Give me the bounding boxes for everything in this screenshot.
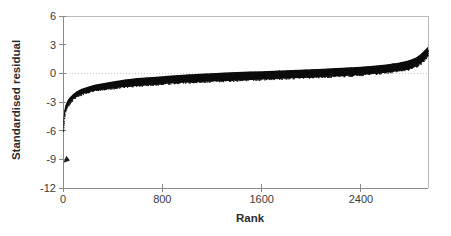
chart-container: 630-3-6-9-12 080016002400 Standardised r… (0, 0, 451, 236)
x-tick-label-2: 1600 (249, 193, 273, 205)
y-axis-title: Standardised residual (10, 40, 22, 160)
y-tick-label-0: 6 (50, 10, 56, 22)
chart-background (0, 0, 451, 236)
x-tick-label-3: 2400 (349, 193, 373, 205)
y-tick-label-3: -3 (46, 96, 56, 108)
y-tick-label-4: -6 (46, 125, 56, 137)
y-tick-label-2: 0 (50, 67, 56, 79)
y-tick-label-5: -9 (46, 153, 56, 165)
x-axis-title: Rank (236, 212, 265, 224)
y-tick-label-1: 3 (50, 39, 56, 51)
x-tick-label-0: 0 (60, 193, 66, 205)
y-tick-label-6: -12 (40, 182, 56, 194)
standardised-residual-chart: 630-3-6-9-12 080016002400 Standardised r… (0, 0, 451, 236)
x-tick-label-1: 800 (153, 193, 171, 205)
